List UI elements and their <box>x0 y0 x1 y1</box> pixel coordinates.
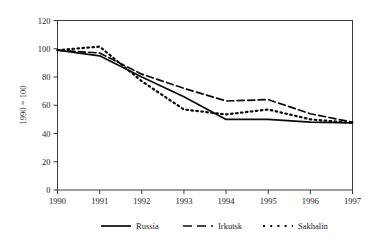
y-tick-label: 20 <box>42 157 51 167</box>
x-tick-label: 1990 <box>49 196 66 206</box>
x-tick-label: 1997 <box>344 196 361 206</box>
y-tick-label: 100 <box>38 44 51 54</box>
x-tick-label: 1995 <box>260 196 277 206</box>
y-tick-label: 60 <box>42 100 51 110</box>
legend-label-irkutsk: Irkutsk <box>218 221 243 231</box>
series-line-russia <box>58 50 353 123</box>
plot-area-frame <box>58 21 353 191</box>
x-axis-tick-labels: 19901991199219931994199519961997 <box>49 196 361 206</box>
x-axis-ticks <box>58 190 353 194</box>
chart-figure: 020406080100120 199019911992199319941995… <box>0 0 372 240</box>
x-tick-label: 1994 <box>218 196 236 206</box>
chart-legend: RussiaIrkutskSakhalin <box>101 221 328 231</box>
y-tick-label: 40 <box>42 129 51 139</box>
y-tick-label: 120 <box>38 16 51 26</box>
line-chart: 020406080100120 199019911992199319941995… <box>0 0 372 240</box>
y-tick-label: 0 <box>46 185 50 195</box>
x-tick-label: 1992 <box>133 196 150 206</box>
series-line-irkutsk <box>58 50 353 122</box>
legend-label-russia: Russia <box>136 221 159 231</box>
x-tick-label: 1993 <box>175 196 192 206</box>
y-axis-ticks <box>54 21 58 191</box>
legend-label-sakhalin: Sakhalin <box>298 221 328 231</box>
series-line-sakhalin <box>58 47 353 123</box>
y-axis-title: 1990 = 100 <box>18 86 28 125</box>
y-tick-label: 80 <box>42 72 51 82</box>
data-series-group <box>58 47 353 123</box>
x-tick-label: 1991 <box>91 196 108 206</box>
y-axis-tick-labels: 020406080100120 <box>38 16 51 196</box>
x-tick-label: 1996 <box>302 196 319 206</box>
